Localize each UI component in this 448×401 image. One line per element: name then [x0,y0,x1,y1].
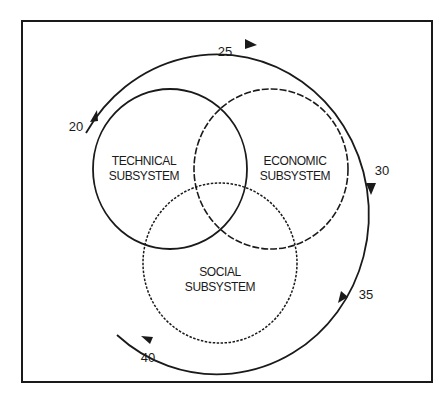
cycle-marker-35: 35 [359,287,373,302]
cycle-marker-40: 40 [141,350,155,365]
social-subsystem-circle [143,183,297,343]
economic-label-line2: SUBSYSTEM [260,169,331,183]
arrowhead-20-icon [90,110,98,122]
cycle-marker-20: 20 [69,119,83,134]
social-label-line2: SUBSYSTEM [185,280,256,294]
arrowhead-35-icon [338,291,348,303]
social-label-line1: SOCIAL [199,265,241,279]
sociotechnical-venn-diagram: TECHNICAL SUBSYSTEM ECONOMIC SUBSYSTEM S… [0,0,448,401]
technical-label-line1: TECHNICAL [112,154,177,168]
economic-label-line1: ECONOMIC [264,154,328,168]
cycle-marker-25: 25 [218,44,232,59]
arrowhead-40-icon [141,336,153,344]
cycle-marker-30: 30 [375,163,389,178]
diagram-frame [22,21,432,382]
technical-label-line2: SUBSYSTEM [109,169,180,183]
arrowhead-25-icon [245,39,257,49]
